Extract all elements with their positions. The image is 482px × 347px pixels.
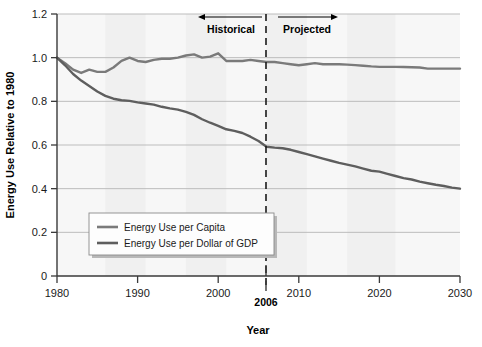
energy-use-line-chart: Historical Projected 00.20.40.60.81.01.2… bbox=[0, 0, 482, 347]
projected-annotation: Projected bbox=[278, 14, 338, 35]
x-tick-label-2020: 2020 bbox=[367, 287, 391, 299]
x-tick-label-2010: 2010 bbox=[287, 287, 311, 299]
x-tick-label-2000: 2000 bbox=[206, 287, 230, 299]
historical-annotation: Historical bbox=[198, 14, 262, 35]
y-tick-label-1.2: 1.2 bbox=[32, 8, 47, 20]
y-tick-label-1.0: 1.0 bbox=[32, 52, 47, 64]
y-axis-title: Energy Use Relative to 1980 bbox=[4, 72, 16, 219]
legend-label-per-gdp: Energy Use per Dollar of GDP bbox=[124, 238, 258, 249]
y-tick-label-0.4: 0.4 bbox=[32, 183, 47, 195]
x-axis-title: Year bbox=[246, 324, 270, 336]
x-tick-label-1990: 1990 bbox=[125, 287, 149, 299]
y-tick-label-0: 0 bbox=[41, 270, 47, 282]
x-tick-label-2030: 2030 bbox=[448, 287, 472, 299]
tick-2006-label: 2006 bbox=[254, 296, 278, 308]
legend-label-per-capita: Energy Use per Capita bbox=[124, 222, 226, 233]
chart-legend[interactable]: Energy Use per Capita Energy Use per Dol… bbox=[89, 213, 277, 258]
y-tick-label-0.2: 0.2 bbox=[32, 226, 47, 238]
x-tick-label-1980: 1980 bbox=[45, 287, 69, 299]
y-tick-label-0.8: 0.8 bbox=[32, 95, 47, 107]
historical-label: Historical bbox=[207, 23, 255, 35]
projected-label: Projected bbox=[283, 23, 331, 35]
chart-figure: Historical Projected 00.20.40.60.81.01.2… bbox=[0, 0, 482, 347]
y-axis-ticks: 00.20.40.60.81.01.2 bbox=[32, 8, 57, 282]
y-tick-label-0.6: 0.6 bbox=[32, 139, 47, 151]
